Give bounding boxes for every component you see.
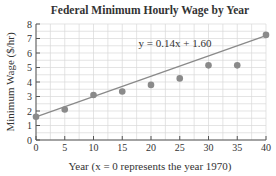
data-point — [234, 62, 241, 69]
y-axis-label: Minimum Wage ($/hr) — [4, 32, 17, 131]
data-point — [90, 92, 97, 99]
svg-text:8: 8 — [27, 19, 32, 30]
data-point — [148, 82, 155, 89]
svg-text:40: 40 — [261, 142, 271, 153]
trendline-equation: y = 0.14x + 1.60 — [139, 37, 212, 49]
scatter-chart: Federal Minimum Hourly Wage by Year 0510… — [0, 0, 276, 176]
svg-text:20: 20 — [146, 142, 156, 153]
svg-text:2: 2 — [27, 106, 32, 117]
data-point — [176, 75, 183, 82]
svg-text:4: 4 — [27, 77, 32, 88]
data-point — [61, 106, 68, 113]
x-axis-label: Year (x = 0 represents the year 1970) — [68, 160, 231, 173]
svg-text:15: 15 — [117, 142, 127, 153]
svg-text:0: 0 — [34, 142, 39, 153]
svg-text:30: 30 — [204, 142, 214, 153]
svg-text:5: 5 — [27, 62, 32, 73]
svg-text:25: 25 — [175, 142, 185, 153]
svg-text:10: 10 — [89, 142, 99, 153]
svg-text:3: 3 — [27, 91, 32, 102]
data-point — [205, 62, 212, 69]
svg-text:7: 7 — [27, 33, 32, 44]
svg-text:5: 5 — [62, 142, 67, 153]
data-point — [119, 88, 126, 95]
chart-title: Federal Minimum Hourly Wage by Year — [51, 4, 249, 17]
data-point — [263, 32, 270, 39]
svg-text:0: 0 — [27, 135, 32, 146]
data-point — [33, 114, 40, 121]
svg-text:1: 1 — [27, 120, 32, 131]
svg-text:6: 6 — [27, 48, 32, 59]
svg-text:35: 35 — [232, 142, 242, 153]
